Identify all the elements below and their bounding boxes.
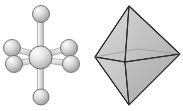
ligand-equatorial-lower-right [63, 56, 80, 73]
ligand-equatorial-lower-left [6, 56, 23, 73]
ligand-axial-top [33, 6, 50, 23]
ligand-axial-bottom [33, 89, 49, 105]
ligand-equatorial-upper-left [4, 40, 21, 57]
octahedral-geometry-figure [0, 0, 183, 111]
octahedron-svg [92, 0, 183, 111]
ligand-equatorial-upper-right [61, 40, 78, 57]
ball-and-stick-model [0, 0, 92, 111]
ball-and-stick-svg [0, 0, 92, 111]
central-atom [29, 46, 52, 69]
octahedron-solid [92, 0, 183, 111]
face-top-front-right [125, 6, 180, 62]
